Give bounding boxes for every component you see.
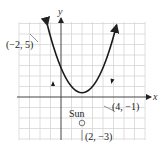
direction-arrow-left (51, 81, 55, 86)
y-axis-label: y (57, 6, 63, 17)
point-label: (2, −3) (85, 131, 112, 143)
point-label: (4, −1) (112, 101, 139, 113)
grid (19, 22, 145, 140)
point-label: (−2, 5) (6, 39, 33, 51)
x-axis-label: x (152, 91, 158, 102)
orbit-graph: x y Sun (−2, 5) (4, −1) (2, −3) (0, 0, 164, 154)
sun-label: Sun (69, 108, 85, 119)
